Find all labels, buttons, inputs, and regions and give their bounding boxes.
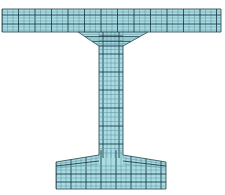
i-beam-mesh — [0, 0, 225, 195]
